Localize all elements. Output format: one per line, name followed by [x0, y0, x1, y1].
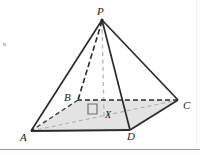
vertex-label-A: A — [20, 132, 27, 143]
figure-canvas: P B C A D X — [0, 0, 200, 155]
vertex-label-B: B — [64, 92, 71, 103]
edge-AD — [31, 130, 130, 131]
scan-artifact-speck — [3, 43, 6, 46]
vertex-label-X: X — [105, 110, 111, 120]
page-footer-band — [0, 150, 200, 155]
vertex-label-P: P — [97, 6, 104, 17]
vertex-label-D: D — [127, 131, 135, 142]
page-margin-line — [196, 0, 197, 149]
vertex-dot-P — [100, 18, 103, 21]
pyramid-diagram — [0, 0, 200, 155]
vertex-label-C: C — [183, 100, 190, 111]
